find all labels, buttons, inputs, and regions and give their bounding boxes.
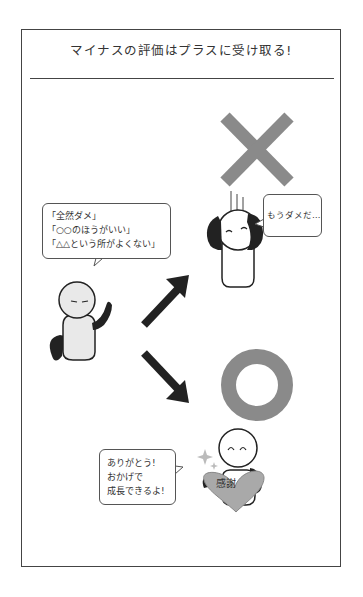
grateful-character <box>203 429 264 512</box>
bubble-tail-positive <box>175 466 183 474</box>
critic-character <box>50 282 112 361</box>
sparkle-icon <box>197 449 218 470</box>
negative-speech-bubble: もうダメだ… <box>263 194 322 237</box>
circle-mark-icon <box>229 357 286 414</box>
bubble-tail-criticism <box>94 258 103 266</box>
illustration <box>0 0 363 597</box>
criticism-line-1: 「全然ダメ」 <box>47 209 166 223</box>
positive-line-1: ありがとう! <box>107 456 168 470</box>
criticism-line-2: 「○○のほうがいい」 <box>47 223 166 237</box>
negative-text: もうダメだ… <box>267 208 318 222</box>
positive-speech-bubble: ありがとう! おかげで 成長できるよ! <box>99 449 176 505</box>
cross-mark-icon <box>225 117 289 182</box>
arrow-down-right-icon <box>144 353 189 403</box>
heart-label: 感謝 <box>216 475 236 490</box>
criticism-speech-bubble: 「全然ダメ」 「○○のほうがいい」 「△△という所がよくない」 <box>42 203 171 259</box>
criticism-line-3: 「△△という所がよくない」 <box>47 237 166 251</box>
positive-line-3: 成長できるよ! <box>107 484 168 498</box>
positive-line-2: おかげで <box>107 470 168 484</box>
arrow-up-right-icon <box>144 275 189 325</box>
sad-character <box>207 210 263 287</box>
